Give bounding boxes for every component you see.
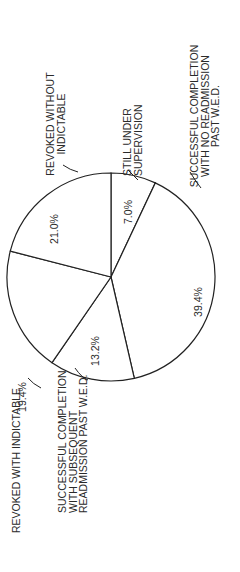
category-label-completion-with-readmission: SUCCESSFUL COMPLETIONWITH SUBSEQUENTREAD…	[56, 370, 89, 513]
category-label-line: REVOKED WITH INDICTABLE	[10, 388, 22, 533]
value-label-still-under-supervision: 7.0%	[122, 200, 134, 224]
category-label-revoked-with-indictable: REVOKED WITH INDICTABLE	[10, 388, 22, 533]
value-label-revoked-without-indictable: 21.0%	[48, 214, 60, 244]
value-label-completion-no-readmission: 39.4%	[192, 287, 204, 317]
category-label-line: PAST W.E.D.	[209, 85, 221, 147]
leader-revoked-without-indictable	[63, 165, 78, 172]
category-label-revoked-without-indictable: REVOKED WITHOUTINDICTABLE	[44, 72, 67, 176]
pie-chart: 7.0%STILL UNDERSUPERVISION39.4%SUCCESSFU…	[0, 0, 240, 572]
category-label-line: INDICTABLE	[55, 93, 67, 154]
pie-slices	[7, 173, 215, 381]
category-label-still-under-supervision: STILL UNDERSUPERVISION	[121, 104, 144, 176]
value-label-completion-with-readmission: 13.2%	[89, 336, 101, 366]
leader-revoked-with-indictable	[28, 378, 41, 388]
category-label-completion-no-readmission: SUCCESSFUL COMPLETIONWITH NO READMISSION…	[188, 45, 221, 188]
category-label-line: SUPERVISION	[132, 104, 144, 176]
category-label-line: READMISSION PAST W.E.D.	[77, 375, 89, 513]
